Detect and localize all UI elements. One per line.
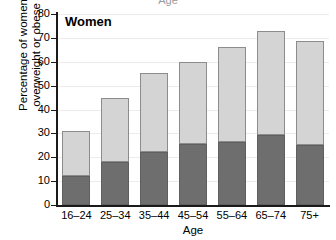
bar-group[interactable] (62, 14, 90, 205)
bar-segment-obese[interactable] (62, 176, 90, 205)
x-axis-tick-labels: 16–2425–3435–4445–5455–6465–7475+ (57, 209, 329, 225)
bar-stack (179, 62, 207, 205)
x-axis-tick-label: 45–54 (174, 209, 213, 222)
x-axis-tick-label: 55–64 (212, 209, 251, 222)
bar-segment-obese[interactable] (140, 152, 168, 205)
y-axis-tick-label: 0 (28, 199, 50, 210)
x-axis-tick-label: 35–44 (135, 209, 174, 222)
x-axis-tick-label: 75+ (290, 209, 329, 222)
clipped-top-label-text: Age (158, 0, 178, 6)
bar-segment-overweight[interactable] (140, 73, 168, 153)
y-axis-title: Percentage of women overweight or obese (17, 0, 43, 145)
y-axis-title-line-1: Percentage of women (17, 0, 30, 145)
x-axis-tick-label: 25–34 (96, 209, 135, 222)
x-axis-line (56, 205, 330, 207)
bar-segment-overweight[interactable] (179, 62, 207, 144)
bar-stack (257, 31, 285, 205)
bar-group[interactable] (179, 14, 207, 205)
bar-group[interactable] (140, 14, 168, 205)
bar-segment-overweight[interactable] (296, 41, 324, 145)
bar-stack (101, 98, 129, 205)
bar-group[interactable] (296, 14, 324, 205)
y-axis-tick (51, 205, 57, 206)
bar-segment-overweight[interactable] (257, 31, 285, 135)
x-axis-title: Age (57, 224, 329, 237)
bar-segment-overweight[interactable] (218, 47, 246, 141)
y-axis-tick-label: 20 (28, 151, 50, 162)
bar-group[interactable] (218, 14, 246, 205)
bar-segment-obese[interactable] (257, 135, 285, 205)
bar-stack (140, 73, 168, 206)
x-axis-tick-label: 16–24 (57, 209, 96, 222)
y-axis-tick-label: 10 (28, 175, 50, 186)
bar-segment-overweight[interactable] (101, 98, 129, 162)
bar-segment-obese[interactable] (101, 162, 129, 205)
bar-series-container (57, 14, 329, 205)
bar-stack (296, 41, 324, 205)
x-axis-tick-label: 65–74 (251, 209, 290, 222)
bar-segment-obese[interactable] (218, 142, 246, 205)
bar-segment-obese[interactable] (296, 145, 324, 205)
chart-figure: Age 01020304050607080 Percentage of wome… (0, 0, 336, 240)
bar-stack (218, 47, 246, 205)
bar-segment-obese[interactable] (179, 144, 207, 205)
bar-stack (62, 131, 90, 205)
bar-segment-overweight[interactable] (62, 131, 90, 176)
clipped-top-label: Age (0, 0, 336, 7)
y-axis-title-line-2: overweight or obese (30, 0, 43, 145)
bar-group[interactable] (257, 14, 285, 205)
bar-group[interactable] (101, 14, 129, 205)
